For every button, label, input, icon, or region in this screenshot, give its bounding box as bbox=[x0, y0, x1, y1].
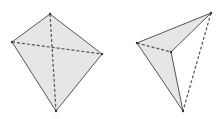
vertex-bottom bbox=[182, 110, 184, 112]
vertex-bottom bbox=[55, 110, 57, 112]
vertex-top_right bbox=[210, 12, 212, 14]
vertex-inner bbox=[170, 51, 172, 53]
vertex-left bbox=[136, 42, 138, 44]
tetrahedron-figure bbox=[136, 12, 212, 112]
vertex-top bbox=[49, 13, 51, 15]
quadrilateral-figure bbox=[11, 13, 103, 112]
vertex-left bbox=[11, 41, 13, 43]
geometry-diagram bbox=[0, 0, 224, 119]
vertex-right bbox=[101, 53, 103, 55]
